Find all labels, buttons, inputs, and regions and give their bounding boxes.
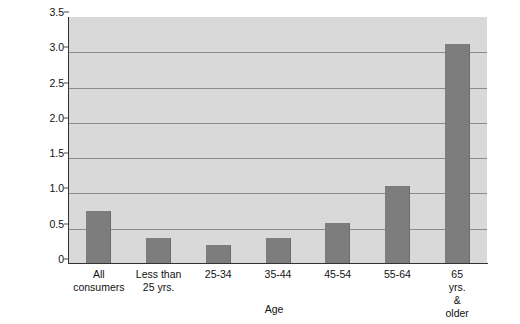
x-tick-label: All consumers	[73, 268, 124, 294]
x-tick-label: 45-54	[324, 268, 351, 281]
bar	[445, 44, 470, 264]
x-tick-label: 25-34	[205, 268, 232, 281]
y-tick-label: 1.5	[20, 148, 64, 159]
bar	[325, 223, 350, 264]
y-tick-label: 2.0	[20, 112, 64, 123]
y-tick-mark	[64, 12, 69, 13]
y-tick-label: 1.0	[20, 183, 64, 194]
y-tick-label: 2.5	[20, 77, 64, 88]
x-tick-label: 35-44	[265, 268, 292, 281]
y-axis-line	[68, 17, 69, 264]
bars-layer	[69, 17, 487, 264]
bar	[266, 238, 291, 264]
bar	[146, 238, 171, 264]
x-tick-label: 55-64	[384, 268, 411, 281]
bar	[86, 211, 111, 264]
x-axis-tick-labels: All consumersLess than 25 yrs.25-3435-44…	[69, 268, 487, 308]
x-tick-label: Less than 25 yrs.	[136, 268, 182, 294]
x-axis-title-text: Age	[265, 303, 284, 315]
bar	[206, 245, 231, 264]
bar-chart: Percent 00.51.01.52.02.53.03.5 All consu…	[0, 0, 520, 324]
y-tick-label: 3.5	[20, 7, 64, 18]
y-tick-label: 0.5	[20, 218, 64, 229]
y-axis-tick-labels: 00.51.01.52.02.53.03.5	[20, 12, 64, 264]
y-tick-label: 0	[20, 254, 64, 265]
x-axis-title: Age	[0, 303, 520, 315]
plot-area	[69, 17, 487, 264]
y-tick-label: 3.0	[20, 42, 64, 53]
bar	[385, 186, 410, 264]
x-axis-line	[69, 263, 488, 264]
